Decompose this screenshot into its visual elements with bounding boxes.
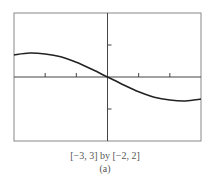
graph-viewport bbox=[0, 0, 210, 146]
window-caption: [−3, 3] by [−2, 2] bbox=[0, 150, 210, 161]
subfigure-label: (a) bbox=[0, 163, 210, 174]
